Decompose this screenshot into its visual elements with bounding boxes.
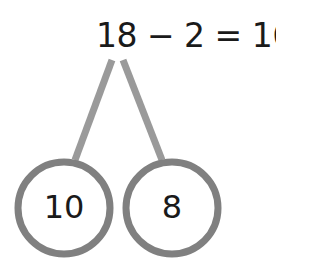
left-connector-line bbox=[75, 60, 112, 160]
right-connector-line bbox=[123, 60, 162, 160]
right-part-value: 8 bbox=[132, 188, 212, 226]
equation-text: 18 − 2 = 16 bbox=[96, 16, 276, 55]
left-part-value: 10 bbox=[24, 188, 104, 226]
